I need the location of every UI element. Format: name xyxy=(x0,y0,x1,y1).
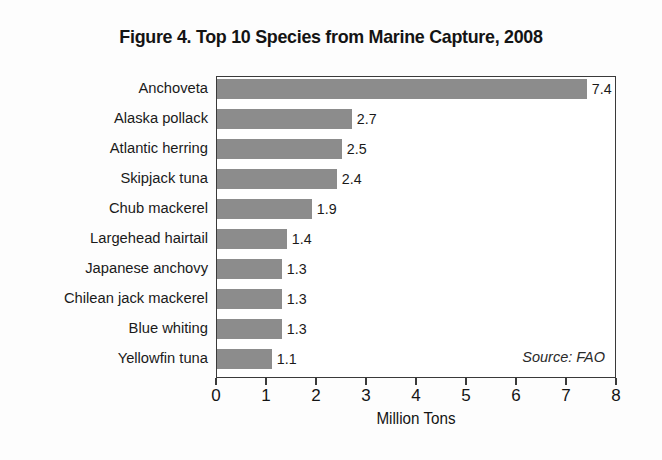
x-tick-mark xyxy=(215,378,217,385)
x-tick-label: 7 xyxy=(546,386,586,406)
x-axis-title: Million Tons xyxy=(226,410,606,428)
category-label: Chub mackerel xyxy=(10,198,208,218)
category-label: Chilean jack mackerel xyxy=(10,288,208,308)
x-tick-label: 5 xyxy=(446,386,486,406)
bar-row[interactable]: 1.3 xyxy=(217,259,617,279)
bar-row[interactable]: 2.5 xyxy=(217,139,617,159)
bar[interactable] xyxy=(217,79,587,99)
bar[interactable] xyxy=(217,169,337,189)
bar[interactable] xyxy=(217,289,282,309)
category-label: Anchoveta xyxy=(10,78,208,98)
category-label: Skipjack tuna xyxy=(10,168,208,188)
bar[interactable] xyxy=(217,319,282,339)
category-label: Alaska pollack xyxy=(10,108,208,128)
x-tick-mark xyxy=(265,378,267,385)
bar[interactable] xyxy=(217,259,282,279)
x-tick-label: 1 xyxy=(246,386,286,406)
category-label: Japanese anchovy xyxy=(10,258,208,278)
bar-value-label: 2.5 xyxy=(342,139,367,159)
bar-row[interactable]: 1.3 xyxy=(217,289,617,309)
bar-value-label: 2.7 xyxy=(352,109,377,129)
bar-row[interactable]: 1.3 xyxy=(217,319,617,339)
figure-container: Figure 4. Top 10 Species from Marine Cap… xyxy=(0,0,662,460)
x-tick-label: 0 xyxy=(196,386,236,406)
bar-value-label: 1.9 xyxy=(312,199,337,219)
x-tick-mark xyxy=(515,378,517,385)
bar-value-label: 1.3 xyxy=(282,319,307,339)
x-tick-label: 6 xyxy=(496,386,536,406)
bar-value-label: 1.4 xyxy=(287,229,312,249)
chart-title: Figure 4. Top 10 Species from Marine Cap… xyxy=(20,26,642,48)
bar-value-label: 2.4 xyxy=(337,169,362,189)
bar[interactable] xyxy=(217,199,312,219)
category-axis-labels: AnchovetaAlaska pollackAtlantic herringS… xyxy=(0,76,208,378)
bars-layer: 7.42.72.52.41.91.41.31.31.31.1 xyxy=(217,77,615,377)
x-tick-mark xyxy=(615,378,617,385)
category-label: Largehead hairtail xyxy=(10,228,208,248)
x-tick-mark xyxy=(465,378,467,385)
bar-value-label: 1.3 xyxy=(282,289,307,309)
x-tick-mark xyxy=(315,378,317,385)
bar-value-label: 1.1 xyxy=(272,349,297,369)
x-tick-label: 2 xyxy=(296,386,336,406)
bar-value-label: 7.4 xyxy=(587,79,612,99)
x-tick-mark xyxy=(565,378,567,385)
x-tick-mark xyxy=(415,378,417,385)
source-annotation: Source: FAO xyxy=(522,349,605,365)
bar[interactable] xyxy=(217,109,352,129)
bar[interactable] xyxy=(217,139,342,159)
bar-value-label: 1.3 xyxy=(282,259,307,279)
x-tick-label: 4 xyxy=(396,386,436,406)
plot-area: 7.42.72.52.41.91.41.31.31.31.1 Source: F… xyxy=(216,76,616,378)
category-label: Blue whiting xyxy=(10,318,208,338)
bar-row[interactable]: 1.4 xyxy=(217,229,617,249)
bar-row[interactable]: 2.7 xyxy=(217,109,617,129)
bar-row[interactable]: 2.4 xyxy=(217,169,617,189)
x-tick-label: 3 xyxy=(346,386,386,406)
bar-row[interactable]: 1.9 xyxy=(217,199,617,219)
category-label: Yellowfin tuna xyxy=(10,348,208,368)
category-label: Atlantic herring xyxy=(10,138,208,158)
bar[interactable] xyxy=(217,349,272,369)
x-tick-label: 8 xyxy=(596,386,636,406)
x-tick-mark xyxy=(365,378,367,385)
bar[interactable] xyxy=(217,229,287,249)
bar-row[interactable]: 7.4 xyxy=(217,79,617,99)
